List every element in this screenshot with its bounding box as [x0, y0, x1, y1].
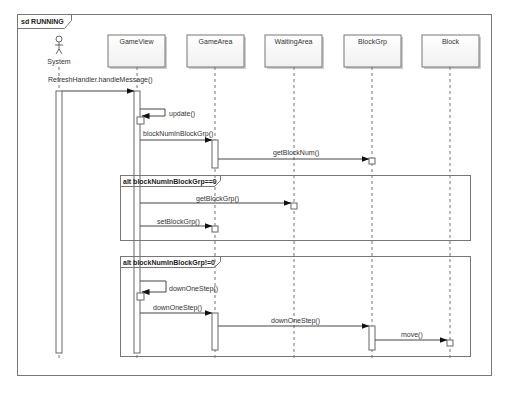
- message-label: downOneStep(): [271, 317, 320, 325]
- frame-title: sd RUNNING: [21, 18, 64, 25]
- lifeline-label: GameView: [119, 38, 154, 45]
- lifeline-label: WaitingArea: [275, 38, 313, 46]
- actor-label: System: [47, 58, 71, 66]
- message-label: RefreshHandler.handleMessage(): [48, 76, 153, 84]
- message-label: downOneStep(): [169, 285, 218, 293]
- lifeline-label: Block: [442, 38, 460, 45]
- diagram-frame: sd RUNNING: [18, 15, 492, 376]
- activation-gameview: [134, 91, 140, 353]
- message-label: setBlockGrp(): [157, 218, 200, 226]
- sequence-diagram: sd RUNNING System GameView GameArea Wait…: [0, 0, 506, 393]
- lifeline-label: GameArea: [199, 38, 233, 45]
- message-label: move(): [401, 331, 423, 339]
- lifeline-label: BlockGrp: [358, 38, 387, 46]
- message-label: downOneStep(): [153, 304, 202, 312]
- message-label: blockNumInBlockGrp(): [143, 130, 213, 138]
- fragment-guard: alt blockNumInBlockGrp==0: [123, 178, 217, 186]
- message-label: getBlockGrp(): [196, 195, 239, 203]
- message-label: update(): [169, 110, 195, 118]
- activation-system: [56, 91, 62, 353]
- fragment-guard: alt blockNumInBlockGrp!=0: [123, 259, 215, 267]
- message-label: getBlockNum(): [273, 149, 319, 157]
